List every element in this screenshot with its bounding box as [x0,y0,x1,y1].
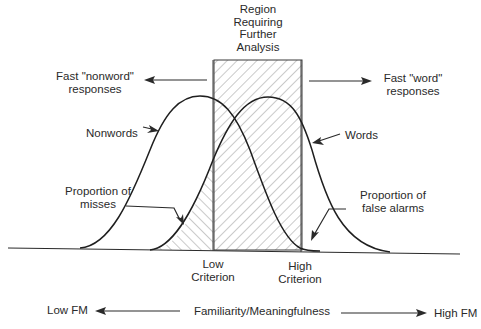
fm-axis-title: Familiarity/Meaningfulness [188,305,336,318]
low-criterion-label-line1: Low [185,258,241,271]
region-title-line: Further [218,28,298,41]
false-alarms-label-line2: false alarms [350,202,436,215]
high-criterion-label: High Criterion [272,260,328,286]
fast-word-label-line2: responses [375,85,451,98]
misses-area [150,160,213,250]
words-pointer-arrow [312,134,340,145]
words-label: Words [345,129,378,142]
region-title-line: Analysis [218,41,298,54]
false-alarms-label-line1: Proportion of [350,189,436,202]
low-fm-label: Low FM [47,304,88,317]
misses-label-line1: Proportion of [58,185,138,198]
low-fm-arrow [95,307,180,315]
high-criterion-label-line1: High [272,260,328,273]
false-alarms-label: Proportion of false alarms [350,189,436,215]
low-criterion-label-line2: Criterion [185,271,241,284]
misses-label: Proportion of misses [58,185,138,211]
region-title-line: Region [218,3,298,16]
fast-word-label-line1: Fast "word" [375,72,451,85]
low-criterion-label: Low Criterion [185,258,241,284]
fast-nonword-label-line1: Fast "nonword" [52,70,138,83]
fast-nonword-label: Fast "nonword" responses [52,70,138,96]
fast-word-arrow [309,77,372,85]
analysis-region [214,60,302,250]
fast-nonword-arrow [144,76,207,84]
fast-nonword-label-line2: responses [52,83,138,96]
region-title-line: Requiring [218,16,298,29]
high-fm-arrow [341,309,427,317]
misses-label-line2: misses [58,198,138,211]
fast-word-label: Fast "word" responses [375,72,451,98]
nonwords-label: Nonwords [86,127,138,140]
high-fm-label: High FM [434,307,477,320]
nonwords-pointer-arrow [143,125,159,133]
region-title: Region Requiring Further Analysis [218,3,298,53]
high-criterion-label-line2: Criterion [272,273,328,286]
false-alarms-pointer-arrow [311,209,346,241]
